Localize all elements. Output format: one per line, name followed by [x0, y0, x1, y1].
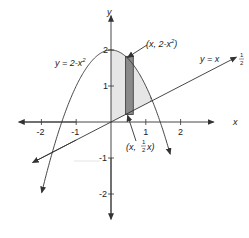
- line-label-frac-num: 1: [240, 52, 244, 58]
- diagram-canvas: -2-11221-1-2 x y y = 2-x2 y = x 1 2 (x, …: [0, 0, 249, 238]
- bottom-point-label-prefix: (x,: [126, 142, 136, 152]
- x-tick-label: 2: [178, 127, 183, 137]
- parabola-label: y = 2-x2: [54, 57, 86, 68]
- x-axis-label: x: [232, 117, 238, 127]
- y-tick-label: 1: [103, 81, 108, 91]
- bottom-point-label-frac-den: 2: [142, 147, 146, 153]
- bottom-point-label-suffix: x): [146, 142, 155, 152]
- vertical-slice: [126, 56, 134, 114]
- top-point-pointer-arrow: [128, 45, 147, 57]
- y-tick-label: -1: [99, 153, 107, 163]
- top-point-label: (x, 2-x2): [146, 38, 177, 49]
- line-negative-arrow: [33, 140, 76, 163]
- x-tick-label: 1: [143, 127, 148, 137]
- x-tick-label: -1: [71, 127, 79, 137]
- y-axis-label: y: [106, 7, 112, 17]
- x-tick-label: -2: [36, 127, 44, 137]
- parabola-arrow: [169, 152, 170, 154]
- line-label: y = x: [199, 54, 220, 64]
- line-label-frac-den: 2: [240, 60, 244, 66]
- y-tick-label: -2: [99, 189, 107, 199]
- parabola-curve: [43, 50, 169, 187]
- parabola-arrow: [42, 187, 43, 193]
- bottom-point-pointer-arrow: [128, 115, 136, 141]
- bottom-point-label-frac-num: 1: [142, 139, 146, 145]
